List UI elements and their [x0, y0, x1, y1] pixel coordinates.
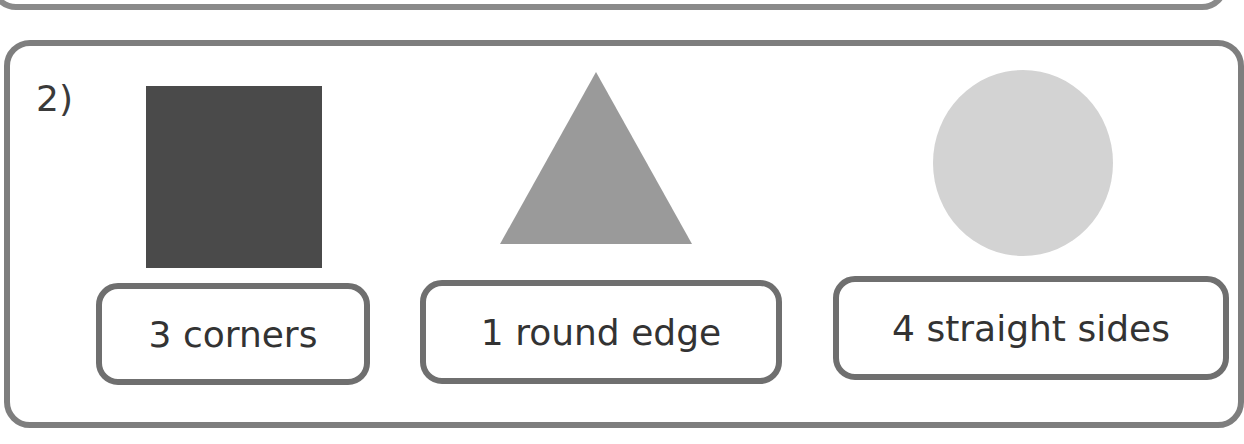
label-text: 4 straight sides: [892, 308, 1170, 349]
triangle-shape[interactable]: [500, 72, 694, 246]
square-shape[interactable]: [146, 86, 322, 268]
label-text: 1 round edge: [481, 312, 721, 353]
circle-shape[interactable]: [933, 70, 1113, 256]
label-1-round-edge[interactable]: 1 round edge: [420, 280, 782, 384]
label-text: 3 corners: [149, 314, 318, 355]
label-4-straight-sides[interactable]: 4 straight sides: [833, 276, 1229, 380]
question-number: 2): [36, 78, 73, 119]
previous-question-box: [0, 0, 1228, 10]
label-3-corners[interactable]: 3 corners: [96, 283, 370, 385]
